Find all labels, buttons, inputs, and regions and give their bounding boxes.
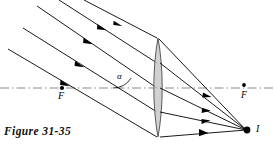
angle-alpha-label: α (117, 72, 122, 81)
figure-caption: Figure 31-35 (4, 125, 71, 137)
image-point-label: I (256, 124, 259, 134)
focal-point-right-label: F (241, 91, 247, 101)
converging-lens (154, 38, 162, 137)
refracted-arrowhead-4 (202, 119, 211, 124)
refracted-arrowhead-2 (202, 93, 211, 98)
incident-arrowhead-1 (113, 21, 122, 26)
refracted-ray-1 (159, 39, 246, 130)
incident-arrowhead-4 (75, 61, 85, 67)
incident-ray-1 (84, 0, 157, 38)
focal-point-left-label: F (58, 91, 64, 101)
refracted-arrowhead-5 (199, 129, 208, 136)
incident-arrowhead-group (60, 21, 122, 87)
focal-point-right-dot (242, 83, 246, 87)
figure-container: F F I α Figure 31-35 (0, 0, 275, 147)
incident-ray-3 (37, 6, 157, 88)
incident-ray-5 (8, 49, 157, 137)
incident-ray-group (8, 0, 157, 137)
focal-point-markers (60, 83, 246, 90)
incident-arrowhead-3 (83, 38, 93, 44)
incident-arrowhead-2 (97, 24, 106, 30)
image-point-marker (244, 127, 251, 134)
refracted-arrowhead-group (199, 93, 212, 137)
incident-arrowhead-5 (60, 80, 70, 86)
